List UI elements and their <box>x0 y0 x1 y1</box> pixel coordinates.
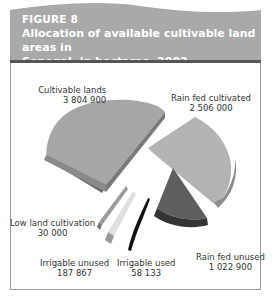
label-rain-fed-cultivated: Rain fed cultivated 2 506 000 <box>171 93 251 113</box>
label-rain-fed-unused: Rain fed unused 1 022 900 <box>196 252 265 272</box>
label-cultivable-lands: Cultivable lands 3 804 900 <box>37 85 106 105</box>
label-irrigable-used: Irrigable used 58 133 <box>117 258 175 278</box>
label-irrigable-unused: Irrigable unused 187 867 <box>40 258 109 278</box>
pie-chart <box>10 0 262 290</box>
slice-cultivable-lands <box>44 100 165 193</box>
slice-irrigable-used <box>128 198 150 251</box>
figure-frame: FIGURE 8 Allocation of available cultiva… <box>10 0 260 290</box>
slice-rain-fed-cultivated <box>148 117 236 208</box>
label-low-land-cultivation: Low land cultivation 30 000 <box>10 218 95 238</box>
